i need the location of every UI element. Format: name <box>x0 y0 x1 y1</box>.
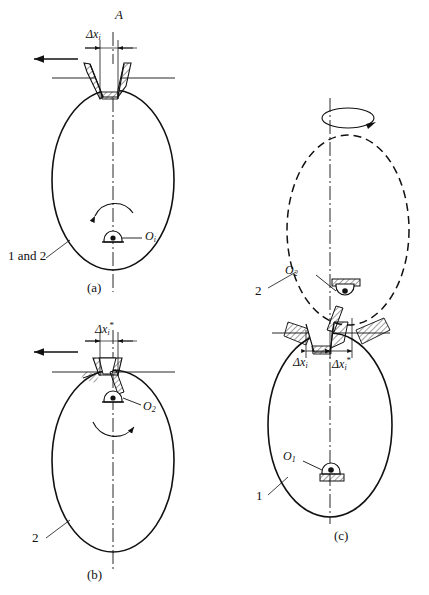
rotation-arc-b <box>93 422 134 436</box>
axis-label-a: A <box>115 8 123 21</box>
body-leader-c-lower <box>268 477 288 495</box>
dimension-label-c-right: Δxi* <box>332 356 351 372</box>
pivot-dot-c-lower <box>328 467 334 473</box>
pivot-sub-a: i <box>154 235 156 244</box>
dimension-star-b: * <box>110 320 115 330</box>
dimension-delta-b: Δx <box>95 322 107 336</box>
caption-c: (c) <box>334 529 348 542</box>
axial-rotation-ellipse-c <box>322 108 374 128</box>
body-label-b: 2 <box>32 531 39 544</box>
pivot-O-b: O <box>143 399 152 413</box>
panel-b <box>34 330 175 572</box>
dimension-delta-a: Δx <box>86 27 98 41</box>
dimension-label-a: Δxi <box>86 28 101 42</box>
dimension-star-c-right: * <box>347 355 352 365</box>
caption-a: (a) <box>87 281 101 294</box>
body-leader-a <box>46 240 70 258</box>
pivot-sub-c-upper: 2 <box>294 269 298 278</box>
dimension-label-c-left: Δxi <box>293 356 308 370</box>
axial-rotation-arrowhead-c <box>366 122 376 129</box>
pivot-ground-c-lower <box>320 474 344 481</box>
body-leader-b <box>46 520 70 538</box>
pivot-sub-b: 2 <box>152 405 156 414</box>
pivot-O-c-upper: O <box>285 263 294 277</box>
pivot-label-b: O2 <box>143 400 156 414</box>
pivot-dot-b <box>110 395 115 400</box>
link-arm-b <box>110 370 124 394</box>
dimension-sub-a: i <box>98 33 100 42</box>
pivot-sub-c-lower: 1 <box>292 455 296 464</box>
notch-hatch-bottom-a <box>101 92 118 99</box>
pivot-leader-b <box>123 398 141 405</box>
body-label-a: 1 and 2 <box>8 249 46 262</box>
panel-a <box>34 32 175 292</box>
pivot-leader-c-lower <box>303 461 322 470</box>
pivot-dot-c-upper <box>342 288 348 294</box>
pivot-label-c-upper: O2 <box>285 264 298 278</box>
pivot-label-a: Oi <box>145 230 156 244</box>
dimension-delta-c-right: Δx <box>332 357 344 371</box>
dimension-delta-c-left: Δx <box>293 355 305 369</box>
engineering-diagram <box>0 0 429 595</box>
dimension-sub-c-left: i <box>305 361 307 370</box>
rotor-body-c-upper <box>287 135 409 325</box>
notch-hatch-bottom-c <box>312 346 331 354</box>
pivot-O-a: O <box>145 229 154 243</box>
contact-hatch-right-c <box>356 318 390 344</box>
pivot-label-c-lower: O1 <box>283 450 296 464</box>
caption-b: (b) <box>87 568 102 581</box>
pivot-O-c-lower: O <box>283 449 292 463</box>
rotation-arc-a <box>95 203 133 216</box>
pivot-dot-a <box>110 235 115 240</box>
body-label-c-lower: 1 <box>256 489 263 502</box>
dimension-label-b: Δxi* <box>95 321 114 337</box>
body-label-c-upper: 2 <box>255 284 262 297</box>
